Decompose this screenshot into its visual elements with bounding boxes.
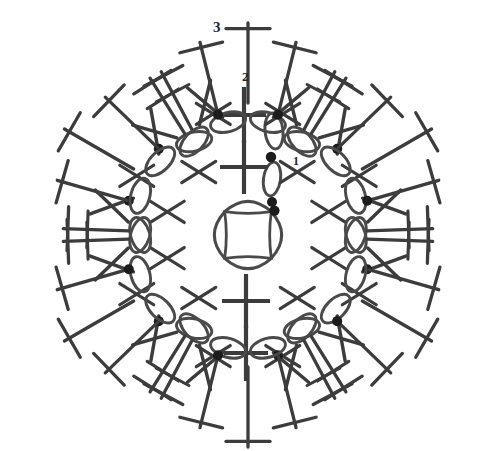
- chain-loop: [342, 254, 369, 294]
- treble-stem: [57, 270, 127, 290]
- treble-crochet: [56, 267, 127, 309]
- chain-loop: [174, 128, 213, 155]
- diagram-canvas: 1 2 3: [0, 0, 482, 451]
- chain-loop: [342, 176, 369, 216]
- treble-crochet: [180, 42, 223, 113]
- treble-stem: [362, 301, 431, 341]
- treble-crochet: [226, 367, 270, 447]
- round-label-1: 1: [293, 155, 299, 167]
- treble-top-bar: [416, 113, 438, 151]
- x-inner-se: [280, 287, 314, 308]
- treble-stem: [63, 229, 128, 231]
- treble-crochet: [338, 322, 402, 385]
- chain-loop: [127, 176, 154, 216]
- treble-stem: [369, 270, 439, 290]
- treble-top-bar: [416, 319, 438, 357]
- dc-cross-top-inner: [220, 140, 268, 194]
- treble-crochet: [273, 42, 316, 113]
- treble-stem: [369, 180, 439, 200]
- petal-dot: [213, 350, 223, 360]
- treble-stem: [57, 180, 127, 200]
- petal-1: [133, 23, 364, 161]
- treble-stem: [105, 97, 157, 148]
- treble-crochet: [56, 161, 127, 203]
- treble-stem: [338, 97, 390, 148]
- treble-crochet: [369, 267, 440, 309]
- treble-mid-bar: [408, 222, 409, 259]
- petal-dot: [213, 110, 223, 120]
- treble-crochet: [338, 85, 402, 148]
- petal-dot: [124, 264, 134, 274]
- centre-chain-arc-right-inner: [270, 212, 272, 259]
- round-label-2: 2: [242, 70, 249, 83]
- treble-stem: [64, 301, 133, 341]
- treble-stem: [338, 322, 390, 373]
- centre-chain-arc-bottom: [225, 258, 272, 268]
- centre-chain-arc-top: [225, 201, 272, 211]
- x-inner-e-dn: [312, 248, 346, 269]
- treble-crochet: [94, 322, 158, 385]
- x-inner-w-up: [150, 201, 184, 222]
- petal-dot: [273, 110, 283, 120]
- treble-stem: [105, 322, 157, 373]
- treble-stem: [63, 239, 128, 241]
- treble-top-bar: [58, 319, 80, 357]
- x-inner-sw: [182, 287, 216, 308]
- treble-crochet: [369, 161, 440, 203]
- x-inner-nw: [182, 161, 216, 182]
- petal-dot: [362, 196, 372, 206]
- chain-loop: [127, 254, 154, 294]
- treble-crochet: [273, 357, 316, 428]
- treble-crochet: [180, 357, 223, 428]
- chart-generated-layer: [56, 23, 440, 447]
- round-label-3: 3: [213, 20, 221, 35]
- crochet-chart-svg: [0, 0, 482, 451]
- treble-crochet: [94, 85, 158, 148]
- centre-chain-arc-left: [214, 212, 224, 259]
- treble-mid-bar: [87, 211, 88, 248]
- treble-top-bar: [427, 219, 429, 263]
- chain-loop: [174, 315, 213, 342]
- treble-stem: [64, 129, 133, 169]
- centre-chain-arc-left-inner: [225, 212, 227, 259]
- petal-dot: [332, 316, 342, 326]
- treble-top-bar: [58, 113, 80, 151]
- treble-stem: [362, 129, 431, 169]
- dc-cross-bottom-inner: [222, 274, 270, 328]
- centre-chain-arc-right: [271, 212, 281, 259]
- treble-stem: [367, 229, 432, 231]
- centre-chain-arc-bottom-inner: [225, 257, 272, 259]
- treble-crochet: [226, 23, 270, 103]
- round1-loop-dot-upper: [266, 152, 276, 162]
- treble-top-bar: [313, 384, 352, 405]
- treble-stem: [367, 239, 432, 241]
- round1-loop-dot-lower: [267, 197, 277, 207]
- chain-loop: [282, 128, 321, 155]
- treble-top-bar: [67, 207, 69, 251]
- x-inner-e-up: [312, 201, 346, 222]
- x-inner-w-dn: [150, 248, 184, 269]
- centre-join-dot: [269, 205, 279, 215]
- centre-chain-arc-top-inner: [225, 212, 272, 214]
